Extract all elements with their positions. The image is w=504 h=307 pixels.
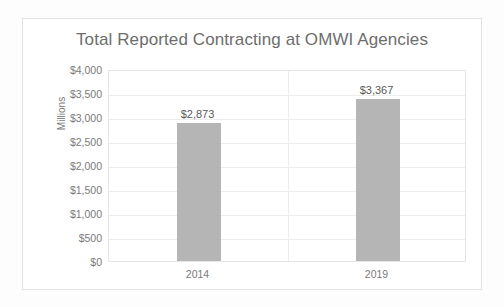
gridline: [109, 119, 465, 120]
y-axis-tick-label: $1,000: [40, 208, 102, 220]
plot-area: [108, 70, 466, 262]
x-axis-label-2014: 2014: [186, 268, 209, 280]
gridline: [109, 191, 465, 192]
y-axis-tick-label: $1,500: [40, 184, 102, 196]
y-axis-tick-label: $0: [40, 256, 102, 268]
y-axis-tick-label: $2,500: [40, 136, 102, 148]
data-label-2019: $3,367: [360, 84, 394, 96]
gridline: [109, 215, 465, 216]
page-title: Total Reported Contracting at OMWI Agenc…: [22, 30, 482, 50]
gridline: [109, 143, 465, 144]
x-axis-label-2019: 2019: [365, 268, 388, 280]
y-axis-tick-label: $2,000: [40, 160, 102, 172]
category-divider: [288, 71, 289, 261]
gridline: [109, 167, 465, 168]
y-axis-tick-label: $3,000: [40, 112, 102, 124]
y-axis-tick-labels: $4,000$3,500$3,000$2,500$2,000$1,500$1,0…: [38, 70, 102, 262]
bar-2014[interactable]: [177, 123, 221, 261]
gridline: [109, 95, 465, 96]
data-label-2014: $2,873: [181, 108, 215, 120]
y-axis-tick-label: $500: [40, 232, 102, 244]
scan-background: Total Reported Contracting at OMWI Agenc…: [0, 0, 504, 307]
y-axis-tick-label: $3,500: [40, 88, 102, 100]
y-axis-tick-label: $4,000: [40, 64, 102, 76]
gridline: [109, 239, 465, 240]
bar-2019[interactable]: [356, 99, 400, 261]
